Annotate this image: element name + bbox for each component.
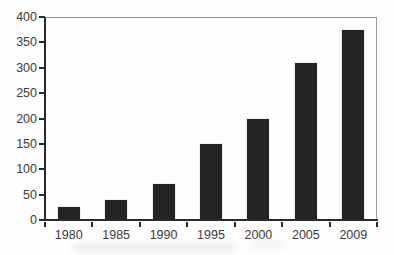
bar-1995 bbox=[200, 144, 222, 220]
bar-1990 bbox=[153, 184, 175, 220]
y-tick-mark bbox=[39, 168, 45, 170]
x-tick-label: 1990 bbox=[141, 228, 187, 242]
scan-artifact-smudge bbox=[248, 242, 286, 248]
y-tick-label: 350 bbox=[7, 35, 37, 49]
y-tick-mark bbox=[39, 67, 45, 69]
x-tick-label: 1995 bbox=[188, 228, 234, 242]
bar-2000 bbox=[247, 119, 269, 221]
y-tick-label: 400 bbox=[7, 10, 37, 24]
x-tick-label: 1980 bbox=[46, 228, 92, 242]
x-tick-mark bbox=[281, 222, 283, 227]
x-tick-mark bbox=[376, 222, 378, 227]
y-tick-label: 100 bbox=[7, 162, 37, 176]
y-tick-mark bbox=[39, 118, 45, 120]
y-tick-mark bbox=[39, 41, 45, 43]
bar-2009 bbox=[342, 30, 364, 220]
x-tick-mark bbox=[329, 222, 331, 227]
y-tick-mark bbox=[39, 16, 45, 18]
x-tick-label: 2000 bbox=[235, 228, 281, 242]
scanned-page: 050100150200250300350400 198019851990199… bbox=[0, 0, 394, 255]
bar-1985 bbox=[105, 200, 127, 220]
y-tick-mark bbox=[39, 194, 45, 196]
bar-2005 bbox=[295, 63, 317, 220]
plot-area bbox=[45, 17, 377, 220]
y-tick-label: 200 bbox=[7, 112, 37, 126]
y-tick-mark bbox=[39, 143, 45, 145]
y-tick-label: 0 bbox=[7, 213, 37, 227]
y-tick-mark bbox=[39, 92, 45, 94]
y-tick-mark bbox=[39, 219, 45, 221]
x-tick-label: 2005 bbox=[283, 228, 329, 242]
x-tick-label: 1985 bbox=[93, 228, 139, 242]
x-tick-mark bbox=[91, 222, 93, 227]
x-axis-line bbox=[45, 219, 378, 221]
y-tick-label: 50 bbox=[7, 188, 37, 202]
x-tick-mark bbox=[139, 222, 141, 227]
x-tick-mark bbox=[44, 222, 46, 227]
bar-chart-figure: 050100150200250300350400 198019851990199… bbox=[0, 0, 394, 255]
y-tick-label: 250 bbox=[7, 86, 37, 100]
x-tick-mark bbox=[186, 222, 188, 227]
y-tick-label: 300 bbox=[7, 61, 37, 75]
scan-artifact-smudge bbox=[72, 243, 237, 251]
x-tick-label: 2009 bbox=[330, 228, 376, 242]
y-tick-label: 150 bbox=[7, 137, 37, 151]
x-tick-mark bbox=[234, 222, 236, 227]
